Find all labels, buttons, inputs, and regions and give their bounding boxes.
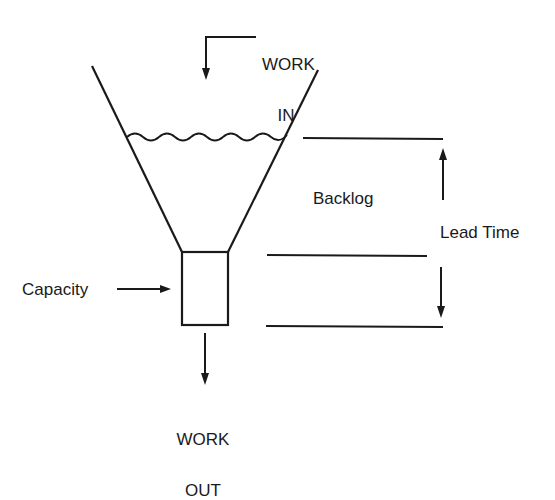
work-out-label: WORK OUT [170,397,236,500]
work-in-label: WORK IN [262,22,310,141]
work-out-arrow [201,333,209,385]
capacity-label: Capacity [22,281,88,298]
lead-time-down-arrow [437,267,445,318]
capacity-box [182,252,228,325]
backlog-bottom-line [267,255,427,256]
work-out-line1: WORK [170,431,236,448]
capacity-bottom-line [266,326,443,327]
work-out-line2: OUT [170,482,236,499]
work-in-arrow [202,37,256,80]
work-in-line1: WORK [262,56,310,73]
work-in-line2: IN [262,107,310,124]
backlog-top-line [303,138,443,139]
lead-time-up-arrow [439,148,447,200]
funnel-left-side [92,66,182,252]
capacity-arrow [117,285,171,293]
backlog-label: Backlog [313,190,373,207]
lead-time-label: Lead Time [440,224,519,241]
